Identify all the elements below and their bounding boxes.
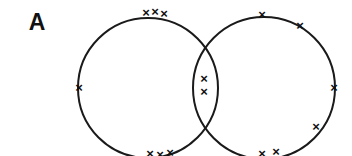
x-mark-icon: ×: [160, 6, 168, 21]
x-mark-icon: ×: [258, 146, 266, 156]
x-mark-icon: ×: [75, 80, 83, 95]
x-mark-icon: ×: [151, 4, 159, 19]
x-mark-icon: ×: [142, 5, 150, 20]
x-mark-icon: ×: [258, 7, 266, 22]
x-mark-icon: ×: [330, 80, 338, 95]
x-mark-icon: ×: [312, 119, 320, 134]
x-mark-icon: ×: [272, 144, 280, 156]
panel-label-a: A: [29, 9, 46, 35]
x-mark-icon: ×: [166, 145, 174, 156]
x-mark-icon: ×: [156, 147, 164, 156]
venn-figure-panel: A ×××××××××××××××: [0, 0, 352, 156]
x-mark-icon: ×: [296, 18, 304, 33]
x-mark-icon: ×: [200, 84, 208, 99]
venn-diagram-canvas: A ×××××××××××××××: [0, 0, 352, 156]
x-mark-icon: ×: [146, 146, 154, 156]
